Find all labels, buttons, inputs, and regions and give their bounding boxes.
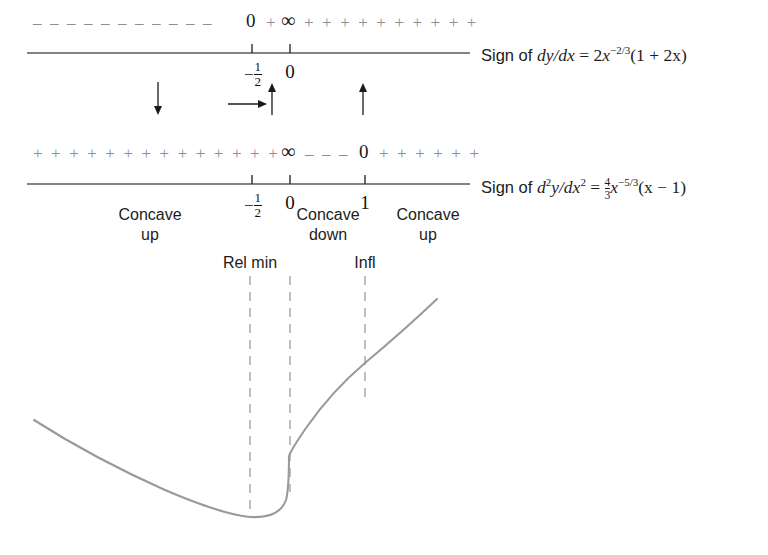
function-curve xyxy=(34,299,437,517)
up-arrow-right xyxy=(359,83,367,115)
figure-vector-layer xyxy=(0,0,768,555)
sign-analysis-figure: – – – – – – – – – – – 0 + ∞ + + + + + + … xyxy=(0,0,768,555)
up-arrow-mid xyxy=(268,83,276,115)
down-arrow-left xyxy=(154,82,162,115)
right-arrow xyxy=(228,100,267,108)
